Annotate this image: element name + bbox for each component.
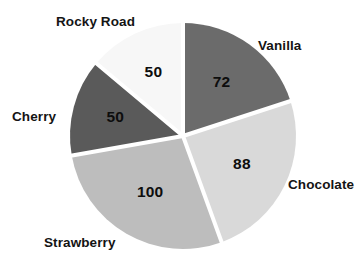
slice-label-rocky-road: Rocky Road (56, 14, 135, 29)
slice-value-rocky-road: 50 (145, 63, 163, 80)
pie-chart-figure: 72 88 100 50 50 Vanilla Chocolate Strawb… (0, 0, 362, 271)
slice-value-strawberry: 100 (137, 183, 163, 200)
slice-label-chocolate: Chocolate (288, 177, 355, 192)
slice-label-vanilla: Vanilla (258, 38, 302, 53)
slice-value-chocolate: 88 (233, 155, 251, 172)
slice-label-strawberry: Strawberry (44, 235, 116, 250)
pie-chart-canvas: 72 88 100 50 50 Vanilla Chocolate Strawb… (0, 0, 362, 271)
slice-value-cherry: 50 (106, 108, 124, 125)
slice-label-cherry: Cherry (12, 109, 57, 124)
slice-value-vanilla: 72 (213, 73, 231, 90)
